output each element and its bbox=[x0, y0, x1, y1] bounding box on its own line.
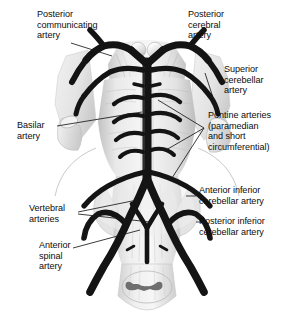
label-posterior-inferior-cerebellar-artery: Posterior inferior cerebellar artery bbox=[199, 216, 265, 237]
label-superior-cerebellar-artery: Superior cerebellar artery bbox=[224, 64, 263, 96]
paramedian-pontine-stub-left bbox=[134, 84, 143, 86]
left-cerebellum-outline bbox=[55, 148, 96, 196]
paramedian-pontine-stub-right bbox=[151, 84, 160, 86]
brainstem-arteries-figure: Posterior communicating artery Posterior… bbox=[0, 0, 294, 318]
label-pontine-arteries: Pontine arteries (paramedian and short c… bbox=[208, 110, 271, 152]
label-vertebral-arteries: Vertebral arteries bbox=[29, 203, 65, 224]
label-anterior-inferior-cerebellar-artery: Anterior inferior cerebellar artery bbox=[199, 185, 264, 206]
label-posterior-communicating-artery: Posterior communicating artery bbox=[37, 9, 98, 41]
label-anterior-spinal-artery: Anterior spinal artery bbox=[39, 240, 70, 272]
label-basilar-artery: Basilar artery bbox=[17, 120, 44, 141]
label-posterior-cerebral-artery: Posterior cerebral artery bbox=[188, 9, 224, 41]
